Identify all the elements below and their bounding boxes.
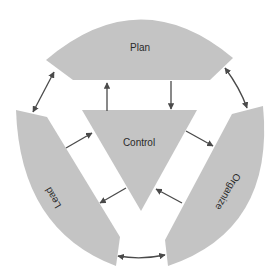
control-label: Control — [123, 137, 155, 148]
arrow-organize-to-control — [156, 189, 182, 203]
arrow-plan-lead — [33, 72, 54, 112]
plan-segment: Plan — [46, 19, 233, 80]
arrow-lead-organize — [118, 255, 165, 258]
control-segment: Control — [82, 110, 197, 211]
plan-label: Plan — [130, 42, 150, 53]
arrow-lead-to-control — [66, 133, 92, 148]
arrow-control-to-lead — [100, 188, 126, 203]
arrow-plan-organize — [225, 68, 247, 108]
diagram-canvas: Plan Lead Organize Control — [0, 0, 280, 279]
management-cycle-diagram: Plan Lead Organize Control — [0, 0, 280, 279]
arrow-control-to-organize — [186, 131, 213, 146]
